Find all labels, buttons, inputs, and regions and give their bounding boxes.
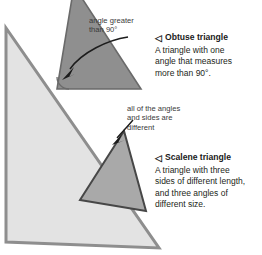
definition-obtuse-triangle: ◁Obtuse triangle A triangle with one ang… (155, 32, 259, 79)
definition-body-line: angle that measures (155, 56, 259, 68)
left-pointing-triangle-icon: ◁ (155, 33, 162, 44)
definition-body-line: and three angles of (155, 188, 259, 200)
definition-body-line: A triangle with three (155, 165, 259, 177)
annotation-line: than 90° (89, 25, 155, 34)
definition-title: Scalene triangle (165, 152, 231, 162)
left-pointing-triangle-icon: ◁ (155, 153, 162, 164)
definition-body: A triangle with three sides of different… (155, 165, 259, 211)
annotation-line: angle greater (89, 16, 155, 25)
definition-body-line: more than 90°. (155, 68, 259, 80)
definition-heading: ◁Obtuse triangle (155, 32, 259, 44)
annotation-obtuse-angle: angle greater than 90° (89, 16, 155, 35)
annotation-line: and sides are (127, 113, 197, 122)
definition-heading: ◁Scalene triangle (155, 152, 259, 164)
annotation-line: different (127, 123, 197, 132)
definition-body-line: A triangle with one (155, 45, 259, 57)
annotation-line: all of the angles (127, 104, 197, 113)
definition-body-line: different size. (155, 199, 259, 211)
definition-body: A triangle with one angle that measures … (155, 45, 259, 80)
definition-title: Obtuse triangle (165, 32, 228, 42)
definition-body-line: sides of different length, (155, 176, 259, 188)
figure-canvas: angle greater than 90° all of the angles… (0, 0, 262, 255)
annotation-scalene: all of the angles and sides are differen… (127, 104, 197, 132)
definition-scalene-triangle: ◁Scalene triangle A triangle with three … (155, 152, 259, 211)
